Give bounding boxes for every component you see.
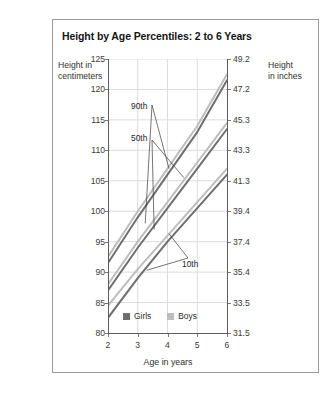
y-tick-label-left: 100: [91, 206, 105, 216]
axis-spine-right: [227, 59, 228, 334]
y-tick-mark-right: [228, 333, 231, 334]
x-axis-label: Age in years: [108, 357, 228, 367]
y-tick-label-left: 80: [95, 328, 105, 338]
y-tick-label-right: 45.3: [233, 115, 250, 125]
y-tick-mark-right: [228, 181, 231, 182]
y-tick-mark-right: [228, 272, 231, 273]
legend-label: Girls: [134, 311, 151, 321]
x-tick-mark: [168, 334, 169, 337]
chart-legend: GirlsBoys: [123, 311, 197, 321]
legend-item-girls: Girls: [123, 311, 151, 321]
x-tick-mark: [227, 334, 228, 337]
y-tick-label-left: 105: [91, 176, 105, 186]
y-tick-mark-left: [105, 59, 108, 60]
y-tick-label-right: 43.3: [233, 145, 250, 155]
legend-swatch-icon: [123, 313, 130, 320]
chart-lines-svg: [108, 59, 228, 334]
x-tick-mark: [108, 334, 109, 337]
annotation-50th: 50th: [131, 133, 147, 143]
y-tick-label-right: 33.5: [233, 298, 250, 308]
y-tick-label-left: 85: [95, 298, 105, 308]
y-tick-mark-left: [105, 272, 108, 273]
y-axis-label-right-line1: Height: [268, 60, 324, 71]
y-tick-mark-right: [228, 303, 231, 304]
y-tick-mark-left: [105, 150, 108, 151]
plot-canvas: [108, 59, 228, 334]
y-tick-mark-left: [105, 181, 108, 182]
y-tick-mark-left: [105, 303, 108, 304]
y-tick-mark-left: [105, 120, 108, 121]
x-tick-label: 6: [225, 340, 230, 350]
y-tick-label-right: 49.2: [233, 54, 250, 64]
x-tick-label: 3: [135, 340, 140, 350]
y-tick-label-right: 41.3: [233, 176, 250, 186]
y-tick-label-left: 95: [95, 237, 105, 247]
annotation-10th: 10th: [182, 259, 198, 269]
y-tick-mark-left: [105, 89, 108, 90]
y-tick-label-right: 37.4: [233, 237, 250, 247]
y-tick-label-right: 31.5: [233, 328, 250, 338]
y-tick-mark-right: [228, 59, 231, 60]
annotation-90th: 90th: [131, 101, 147, 111]
y-tick-mark-right: [228, 89, 231, 90]
y-tick-label-right: 35.4: [233, 267, 250, 277]
y-tick-label-left: 110: [91, 145, 105, 155]
chart-figure: Height by Age Percentiles: 2 to 6 Years …: [0, 0, 332, 397]
legend-item-boys: Boys: [167, 311, 197, 321]
y-tick-mark-right: [228, 211, 231, 212]
y-tick-mark-right: [228, 242, 231, 243]
legend-label: Boys: [178, 311, 197, 321]
plot-area: 80859095100105110115120125 31.533.535.43…: [108, 59, 228, 334]
x-tick-label: 4: [165, 340, 170, 350]
x-tick-mark: [197, 334, 198, 337]
y-tick-label-left: 115: [91, 115, 105, 125]
y-tick-label-right: 39.4: [233, 206, 250, 216]
y-axis-label-right-line2: in inches: [268, 71, 324, 82]
y-tick-mark-left: [105, 211, 108, 212]
y-tick-mark-left: [105, 242, 108, 243]
y-axis-label-right: Height in inches: [268, 60, 324, 82]
x-tick-mark: [138, 334, 139, 337]
chart-title: Height by Age Percentiles: 2 to 6 Years: [62, 30, 312, 42]
x-tick-label: 2: [106, 340, 111, 350]
y-tick-label-left: 90: [95, 267, 105, 277]
y-axis-label-left-line2: centimeters: [58, 71, 110, 82]
x-tick-label: 5: [195, 340, 200, 350]
axis-spine-left: [108, 59, 109, 334]
y-tick-label-left: 120: [91, 84, 105, 94]
y-tick-label-right: 47.2: [233, 84, 250, 94]
y-tick-mark-right: [228, 150, 231, 151]
y-tick-mark-right: [228, 120, 231, 121]
legend-swatch-icon: [167, 313, 174, 320]
y-tick-label-left: 125: [91, 54, 105, 64]
